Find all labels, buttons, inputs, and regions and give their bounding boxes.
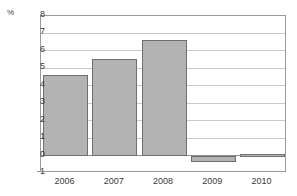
y-axis-tick-label: 2 — [19, 115, 45, 124]
y-axis-tick-label: 5 — [19, 62, 45, 71]
gridline — [41, 33, 285, 34]
bar — [142, 40, 187, 156]
bar — [240, 154, 285, 157]
x-axis-tick-label: 2009 — [188, 176, 237, 186]
x-axis-tick-label: 2007 — [89, 176, 138, 186]
x-axis-tick-label: 2006 — [40, 176, 89, 186]
x-axis-tick-label: 2008 — [138, 176, 187, 186]
y-axis-tick-label: -1 — [19, 167, 45, 176]
y-axis-tick-label: 1 — [19, 132, 45, 141]
y-axis-tick-label: 8 — [19, 10, 45, 19]
x-axis-tick-label: 2010 — [237, 176, 286, 186]
y-axis-tick-label: 3 — [19, 97, 45, 106]
bar-chart: % 876543210-1 20062007200820092010 — [0, 0, 297, 196]
bar — [92, 59, 137, 156]
y-axis-tick-label: 0 — [19, 150, 45, 159]
y-axis-tick-label: 6 — [19, 45, 45, 54]
y-axis-unit-label: % — [7, 8, 14, 18]
y-axis-tick-label: 4 — [19, 80, 45, 89]
plot-area — [40, 15, 286, 172]
y-axis-tick-label: 7 — [19, 27, 45, 36]
bar — [43, 75, 88, 155]
bar — [191, 156, 236, 162]
